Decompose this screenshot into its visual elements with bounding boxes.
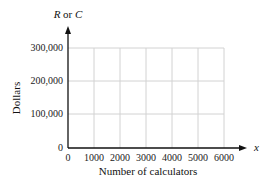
y-axis-label: Dollars [10,82,22,114]
x-tick: 2000 [110,152,130,163]
x-tick: 4000 [162,152,182,163]
x-axis-label: Number of calculators [99,165,197,177]
y-axis-arrow-icon [65,26,71,34]
x-tick-labels: 0 1000 2000 3000 4000 5000 6000 [66,152,235,163]
y-tick-labels: 300,000 200,000 100,000 0 [31,42,64,153]
x-tick: 3000 [136,152,156,163]
grid [68,48,224,148]
y-tick: 100,000 [31,108,64,119]
x-axis-arrow-icon [239,145,247,151]
x-tick: 6000 [214,152,234,163]
y-axis-variable: R or C [53,8,83,20]
chart: 300,000 200,000 100,000 0 0 1000 2000 30… [0,0,271,186]
y-tick: 0 [58,142,63,153]
y-tick: 300,000 [31,42,64,53]
x-tick: 1000 [84,152,104,163]
x-tick: 5000 [188,152,208,163]
y-tick: 200,000 [31,75,64,86]
x-axis-variable: x [253,141,259,153]
x-tick: 0 [66,152,71,163]
